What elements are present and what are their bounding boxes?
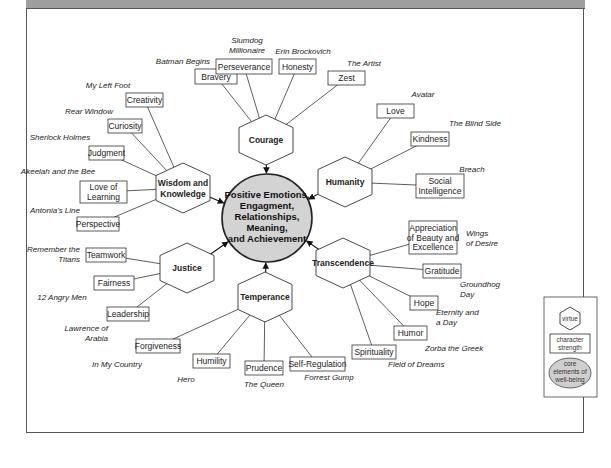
strength-label: Fairness: [98, 278, 131, 288]
virtue-label: Justice: [172, 263, 202, 273]
strength-judgment: JudgmentSherlock Holmes: [30, 133, 126, 160]
strength-label: Self-Regulation: [288, 359, 346, 369]
film-example: Day: [460, 290, 475, 299]
virtues-strengths-diagram: Positive Emotions, Engagment, Relationsh…: [0, 0, 611, 468]
film-example: Slumdog: [231, 36, 263, 45]
strength-creativity: CreativityMy Left Foot: [86, 81, 163, 107]
film-example: The Queen: [244, 380, 285, 389]
film-example: Hero: [177, 375, 195, 384]
strength-gratitude: GratitudeGroundhogDay: [423, 264, 501, 299]
film-example: My Left Foot: [86, 81, 131, 90]
film-example: Avatar: [411, 90, 435, 99]
strength-label: Spirituality: [354, 347, 394, 357]
virtue-transcendence: Transcendence: [312, 238, 374, 288]
strength-label: Intelligence: [418, 186, 461, 196]
legend-strength-line-1: character: [556, 336, 584, 343]
strength-humor: HumorZorba the Greek: [394, 326, 484, 353]
strength-label: Excellence: [412, 242, 453, 252]
legend-core-line-3: well-being: [554, 376, 585, 384]
strength-kindness: KindnessThe Blind Side: [411, 119, 502, 146]
film-example: Lawrence of: [64, 324, 108, 333]
center-line-4: Meaning,: [246, 222, 287, 233]
strength-label: Zest: [338, 73, 355, 83]
film-example: The Artist: [347, 59, 382, 68]
film-example: Antonia's Line: [29, 206, 81, 215]
strength-label: Creativity: [127, 95, 163, 105]
strength-label: of Beauty and: [407, 233, 460, 243]
film-example: Forrest Gump: [304, 373, 354, 382]
virtue-label: Humanity: [326, 177, 365, 187]
film-example: Rear Window: [65, 107, 114, 116]
strength-prudence: PrudenceThe Queen: [244, 361, 285, 389]
legend-core-line-1: core: [564, 360, 577, 367]
strength-label: Curiosity: [108, 121, 142, 131]
strength-loveof-learning: Love ofLearningAkeelah and the Bee: [20, 167, 127, 203]
film-example: a Day: [436, 318, 458, 327]
strength-label: Love of: [90, 182, 119, 192]
strength-leadership: LeadershipLawrence ofArabia: [64, 307, 149, 343]
strength-fairness: Fairness12 Angry Men: [37, 276, 134, 302]
strength-love: LoveAvatar: [377, 90, 435, 118]
center-line-1: Positive Emotions,: [225, 189, 310, 200]
film-example: 12 Angry Men: [37, 293, 87, 302]
strength-label: Humility: [196, 356, 227, 366]
legend-virtue-label: virtue: [562, 315, 578, 322]
film-example: Arabia: [84, 334, 109, 343]
virtue-temperance: Temperance: [238, 272, 292, 322]
film-example: Eternity and: [436, 308, 479, 317]
virtue-label: Transcendence: [312, 258, 374, 268]
legend-core-line-2: elements of: [553, 368, 587, 375]
strength-teamwork: TeamworkRemember theTitans: [27, 245, 126, 264]
film-example: Groundhog: [460, 280, 501, 289]
strength-label: Social: [428, 176, 451, 186]
center-line-2: Engagment,: [240, 200, 294, 211]
film-example: Sherlock Holmes: [30, 133, 90, 142]
virtue-courage: Courage: [239, 115, 293, 165]
film-example: Breach: [459, 165, 485, 174]
film-example: Millionaire: [229, 46, 266, 55]
film-example: Titans: [58, 255, 80, 264]
virtue-humanity: Humanity: [318, 157, 372, 207]
center-line-3: Relationships,: [235, 211, 300, 222]
center-line-5: and Achievement: [228, 233, 307, 244]
strength-label: Honesty: [282, 62, 314, 72]
strength-label: Learning: [87, 192, 120, 202]
strength-label: Appreciation: [409, 223, 457, 233]
strength-forgiveness: ForgivenessIn My Country: [92, 339, 181, 369]
strength-humility: HumilityHero: [177, 354, 230, 384]
strength-label: Teamwork: [87, 250, 126, 260]
strength-label: Forgiveness: [135, 341, 181, 351]
strength-label: Prudence: [246, 363, 283, 373]
film-example: Remember the: [27, 245, 80, 254]
strength-perseverance: PerseveranceSlumdogMillionaire: [216, 36, 272, 74]
strength-label: Perseverance: [218, 62, 271, 72]
strength-honesty: HonestyErin Brockovich: [275, 47, 331, 74]
film-example: Zorba the Greek: [424, 344, 484, 353]
film-example: Batman Begins: [156, 57, 210, 66]
strength-curiosity: CuriosityRear Window: [65, 107, 142, 133]
virtue-label: Temperance: [240, 292, 290, 302]
virtue-justice: Justice: [160, 243, 214, 293]
strength-label: Love: [386, 106, 405, 116]
film-example: The Blind Side: [449, 119, 502, 128]
virtue-wisdom: Wisdom andKnowledge: [156, 163, 210, 213]
strength-label: Humor: [398, 328, 424, 338]
strength-hope: HopeEternity anda Day: [410, 296, 479, 327]
strength-perspective: PerspectiveAntonia's Line: [29, 206, 120, 231]
legend-strength-line-2: strength: [558, 344, 582, 352]
strength-self-regulation: Self-RegulationForrest Gump: [288, 357, 354, 382]
strength-appreciation-ofbeautyand-excellence: Appreciationof Beauty andExcellenceWings…: [407, 221, 499, 254]
center-core-elements: Positive Emotions, Engagment, Relationsh…: [222, 174, 312, 262]
film-example: of Desire: [466, 239, 499, 248]
film-example: Wings: [466, 229, 488, 238]
strength-label: Kindness: [413, 134, 448, 144]
diagram-stage: Positive Emotions, Engagment, Relationsh…: [0, 0, 611, 468]
strength-label: Judgment: [88, 148, 126, 158]
strength-social-intelligence: SocialIntelligenceBreach: [416, 165, 485, 198]
film-example: In My Country: [92, 360, 143, 369]
strength-label: Gratitude: [425, 266, 460, 276]
legend: virtue character strength core elements …: [544, 297, 597, 397]
strength-label: Hope: [414, 298, 435, 308]
film-example: Akeelah and the Bee: [20, 167, 96, 176]
virtue-label: Courage: [249, 135, 284, 145]
